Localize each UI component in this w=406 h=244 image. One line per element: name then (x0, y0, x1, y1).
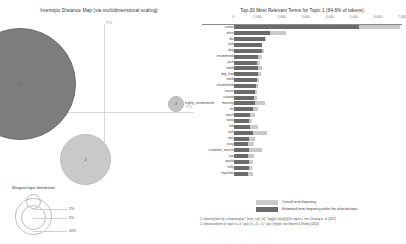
bar-topic-frequency (234, 72, 259, 76)
bar-topic-frequency (234, 31, 270, 35)
bar-row[interactable]: would (198, 160, 406, 165)
bar-topic-frequency (234, 49, 262, 53)
bar-row[interactable]: customer_service (198, 148, 406, 153)
legend-circle-2pct (26, 194, 41, 209)
bar-topic-frequency (234, 101, 256, 105)
bar-topic-frequency (234, 113, 251, 117)
bar-row[interactable]: easy (198, 142, 406, 147)
bar-term-label: keep (227, 118, 234, 123)
legend-text-overall: Overall term frequency (282, 200, 316, 205)
bar-row[interactable]: pick (198, 60, 406, 65)
axis-label-pc1: PC1 (186, 105, 192, 109)
x-axis-tick-1000: 1,000 (254, 15, 262, 19)
bar-topic-frequency (234, 172, 249, 176)
bar-term-label: machine (221, 171, 233, 176)
x-axis-tick-6000: 6,000 (374, 15, 382, 19)
bar-term-label: cream (225, 25, 234, 30)
bar-topic-frequency (234, 55, 258, 59)
bar-term-label: would (225, 159, 233, 164)
bar-topic-frequency (234, 137, 249, 141)
legend-text-topic: Estimated term frequency within the sele… (282, 207, 358, 212)
bar-row[interactable]: house (198, 89, 406, 94)
intertopic-distance-panel: Intertopic Distance Map (via multidimens… (0, 0, 198, 244)
bar-term-label: lamb (227, 66, 234, 71)
footnotes: 1. saliency(term w) = frequency(w) * [su… (200, 217, 406, 227)
topic-bubble-3[interactable]: 3 (168, 96, 184, 112)
topic-bubble-2-number: 2 (84, 158, 86, 162)
axis-label-pc2: PC2 (106, 21, 112, 25)
bar-row[interactable]: recommend (198, 54, 406, 59)
bar-term-label: drive (227, 31, 234, 36)
bar-term-label: dog_had (221, 72, 233, 77)
bar-row[interactable]: die (198, 37, 406, 42)
legend-swatch-overall (256, 200, 278, 205)
bar-term-label: recommend (217, 54, 234, 59)
bar-term-label: need (226, 77, 233, 82)
topic-bubble-2[interactable]: 2 (60, 134, 111, 185)
bar-chart-title: Top-30 Most Relevant Terms for Topic 1 (… (198, 8, 406, 13)
bar-topic-frequency (234, 160, 250, 164)
bar-topic-frequency (234, 37, 265, 41)
bar-row[interactable]: recommend (198, 84, 406, 89)
bar-topic-frequency (234, 131, 253, 135)
bar-row[interactable]: machine (198, 171, 406, 176)
mds-scatter-plot[interactable]: PC2 PC1 1 2 3 highly_recommend (2, 18, 196, 170)
x-axis-tick-0: 0 (233, 15, 235, 19)
bar-topic-frequency (234, 96, 254, 100)
bar-topic-frequency (234, 61, 258, 65)
bar-term-label: caused (223, 95, 233, 100)
bar-row[interactable]: wash (198, 113, 406, 118)
bar-chart-legend: Overall term frequency Estimated term fr… (256, 200, 406, 214)
bar-topic-frequency (234, 25, 359, 29)
x-axis-tick-3000: 3,000 (302, 15, 310, 19)
legend-swatch-topic (256, 207, 278, 212)
bar-topic-frequency (234, 107, 254, 111)
bar-row[interactable]: tree (198, 136, 406, 141)
bar-topic-frequency (234, 125, 250, 129)
bar-row[interactable]: tap (198, 154, 406, 159)
bar-term-label: house (225, 89, 234, 94)
topic-bubble-1-number: 1 (19, 82, 21, 86)
top-terms-panel: Top-30 Most Relevant Terms for Topic 1 (… (198, 0, 406, 244)
bar-term-label: recommend (217, 83, 234, 88)
bar-topic-frequency (234, 154, 248, 158)
bar-term-label: customer_service (209, 148, 234, 153)
bar-row[interactable]: dog_had (198, 72, 406, 77)
bar-row[interactable]: had (198, 43, 406, 48)
bar-topic-frequency (234, 66, 258, 70)
legend-tick-10pct (33, 231, 67, 232)
bar-row[interactable]: keep (198, 119, 406, 124)
bar-row[interactable]: caused (198, 95, 406, 100)
bar-chart-bars: creamdrivediehaddogrecommendpicklambdog_… (198, 25, 406, 195)
bar-term-label: morning (222, 101, 234, 106)
x-axis-tick-5000: 5,000 (350, 15, 358, 19)
bar-row[interactable]: dog (198, 48, 406, 53)
bar-row[interactable]: for (198, 107, 406, 112)
bar-topic-frequency (234, 119, 249, 123)
topic-bubble-3-number: 3 (175, 103, 177, 106)
bar-row[interactable]: cream (198, 25, 406, 30)
x-axis-tick-4000: 4,000 (326, 15, 334, 19)
legend-tick-2pct (33, 209, 67, 210)
bar-row[interactable]: need (198, 78, 406, 83)
bar-topic-frequency (234, 84, 256, 88)
mds-panel-title: Intertopic Distance Map (via multidimens… (0, 8, 198, 13)
bar-topic-frequency (234, 90, 255, 94)
bar-row[interactable]: drive (198, 31, 406, 36)
legend-label-10pct: 10% (69, 229, 76, 233)
bar-term-label: easy (227, 142, 234, 147)
bar-row[interactable]: lamb (198, 66, 406, 71)
legend-label-2pct: 2% (69, 207, 74, 211)
bar-topic-frequency (234, 43, 262, 47)
legend-tick-5pct (33, 218, 67, 219)
pyldavis-visualization: Intertopic Distance Map (via multidimens… (0, 0, 406, 244)
bar-row[interactable]: morning (198, 101, 406, 106)
bar-row[interactable]: help (198, 165, 406, 170)
bar-topic-frequency (234, 142, 249, 146)
bar-row[interactable]: fed (198, 124, 406, 129)
bar-topic-frequency (234, 78, 258, 82)
x-axis-tick-7000: 7,000 (398, 15, 406, 19)
marginal-topic-distribution-legend: Marginal topic distribution 2% 5% 10% (12, 186, 92, 240)
topic-bubble-1[interactable]: 1 (0, 28, 76, 140)
bar-row[interactable]: ball (198, 130, 406, 135)
